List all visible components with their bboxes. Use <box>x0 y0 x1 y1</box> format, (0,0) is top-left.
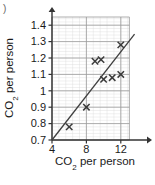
y-axis-tick-label: 1.1 <box>31 68 46 80</box>
data-point-marker <box>100 76 106 82</box>
x-axis-tick-label: 8 <box>83 143 89 155</box>
y-axis-tick-label: 0.7 <box>31 134 46 146</box>
y-axis-arrow <box>49 7 56 12</box>
y-axis-tick-label: 1.3 <box>31 35 46 47</box>
x-axis-tick-label: 12 <box>115 143 127 155</box>
y-axis-tick-label: 0.9 <box>31 101 46 113</box>
y-axis-tick-label: 1.4 <box>31 19 46 31</box>
x-axis-label: CO2 per person <box>55 155 135 172</box>
scatter-plot-figure: 48120.70.80.911.11.21.31.4CO2 per person… <box>0 0 155 185</box>
y-axis-tick-label: 0.8 <box>31 117 46 129</box>
y-axis-label: CO2 per person <box>3 38 20 118</box>
x-axis-tick-label: 4 <box>49 143 55 155</box>
data-point-marker <box>98 56 104 62</box>
corner-mark: ) <box>3 3 6 14</box>
y-axis-tick-label: 1.2 <box>31 52 46 64</box>
y-axis-tick-label: 1 <box>40 85 46 97</box>
x-axis-arrow <box>147 137 152 144</box>
